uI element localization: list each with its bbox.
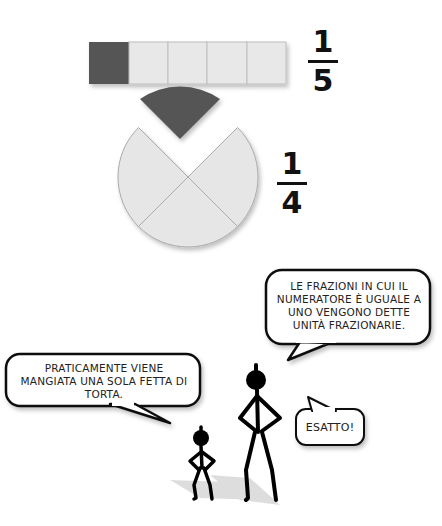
- speech-text-tall: LE FRAZIONI IN CUI IL NUMERATORE È UGUAL…: [276, 280, 422, 332]
- fraction-one-quarter: 1 4: [277, 148, 307, 219]
- fraction-bar-model: [89, 42, 286, 84]
- fraction-one-fifth: 1 5: [308, 26, 338, 97]
- fraction-pie-model: [118, 86, 258, 247]
- bar-segment-shaded: [89, 42, 129, 84]
- speech-text-reply: ESATTO!: [298, 421, 362, 434]
- fraction-numerator: 1: [308, 26, 338, 58]
- tall-stick-figure: [240, 365, 280, 500]
- pie-slice-shaded: [140, 86, 220, 139]
- fraction-numerator: 1: [277, 148, 307, 180]
- illustration-canvas: [0, 0, 442, 526]
- ground-shadow: [170, 475, 280, 505]
- fraction-denominator: 5: [308, 65, 338, 97]
- speech-text-small: PRATICAMENTE VIENE MANGIATA UNA SOLA FET…: [16, 362, 192, 401]
- fraction-denominator: 4: [277, 187, 307, 219]
